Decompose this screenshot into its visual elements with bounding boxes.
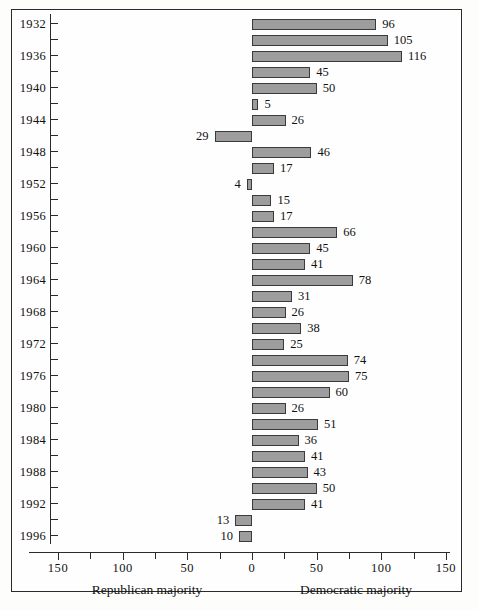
bar-value-label: 4 <box>235 176 241 192</box>
y-axis-tick <box>50 39 58 40</box>
bar <box>252 259 305 270</box>
y-axis-tick <box>50 199 58 200</box>
chart-row: 19524 <box>0 176 479 192</box>
chart-row: 195617 <box>0 208 479 224</box>
bar-value-label: 36 <box>305 432 318 448</box>
x-axis-tick-label: 150 <box>28 561 88 576</box>
chart-row: 5 <box>0 96 479 112</box>
y-axis-tick <box>50 327 58 328</box>
y-axis-tick <box>50 103 58 104</box>
bar-value-label: 26 <box>292 304 305 320</box>
y-axis-tick <box>50 23 58 24</box>
y-axis-tick <box>50 471 58 472</box>
bar <box>252 419 318 430</box>
chart-row: 193296 <box>0 16 479 32</box>
bar <box>247 179 252 190</box>
bar <box>252 275 353 286</box>
chart-row: 194426 <box>0 112 479 128</box>
bar-value-label: 96 <box>382 16 395 32</box>
chart-row: 105 <box>0 32 479 48</box>
chart-row: 17 <box>0 160 479 176</box>
x-axis-minor-tick <box>220 553 221 559</box>
y-axis-tick-label: 1972 <box>0 336 46 352</box>
chart-row: 196826 <box>0 304 479 320</box>
bar-value-label: 13 <box>217 512 230 528</box>
y-axis-tick-label: 1960 <box>0 240 46 256</box>
bar <box>252 483 317 494</box>
y-axis-tick-label: 1964 <box>0 272 46 288</box>
bar-value-label: 26 <box>292 400 305 416</box>
bar <box>252 451 305 462</box>
y-axis-tick <box>50 295 58 296</box>
y-axis-tick <box>50 55 58 56</box>
chart-row: 45 <box>0 64 479 80</box>
y-axis-tick <box>50 231 58 232</box>
y-axis-tick <box>50 455 58 456</box>
y-axis-tick-label: 1980 <box>0 400 46 416</box>
bar <box>252 51 402 62</box>
chart-row: 198436 <box>0 432 479 448</box>
plot-area: 1932961051936116451940505194426291948461… <box>0 14 479 543</box>
y-axis-tick <box>50 375 58 376</box>
y-axis-tick <box>50 519 58 520</box>
bar <box>252 211 274 222</box>
y-axis-tick <box>50 343 58 344</box>
bar <box>252 371 349 382</box>
y-axis-tick <box>50 535 58 536</box>
x-axis-tick-label: 50 <box>287 561 347 576</box>
bar-value-label: 74 <box>354 352 367 368</box>
bar-value-label: 60 <box>336 384 349 400</box>
bar <box>252 227 337 238</box>
bar <box>252 243 310 254</box>
y-axis-tick <box>50 151 58 152</box>
x-axis-tick <box>123 553 124 560</box>
chart-row: 198026 <box>0 400 479 416</box>
bar-value-label: 66 <box>343 224 356 240</box>
bar-value-label: 5 <box>264 96 270 112</box>
bar <box>252 291 292 302</box>
bar <box>252 339 284 350</box>
bar-value-label: 17 <box>280 160 293 176</box>
chart-row: 66 <box>0 224 479 240</box>
y-axis-tick <box>50 247 58 248</box>
y-axis-tick <box>50 439 58 440</box>
x-axis-tick-label: 50 <box>157 561 217 576</box>
x-axis-tick-label: 0 <box>222 561 282 576</box>
chart-row: 60 <box>0 384 479 400</box>
chart-row: 199610 <box>0 528 479 544</box>
y-axis-tick <box>50 359 58 360</box>
chart-row: 31 <box>0 288 479 304</box>
y-axis-tick <box>50 183 58 184</box>
chart-row: 51 <box>0 416 479 432</box>
bar <box>252 147 311 158</box>
axis-caption-republican: Republican majority <box>47 582 247 598</box>
bar-value-label: 78 <box>359 272 372 288</box>
bar-value-label: 105 <box>394 32 413 48</box>
y-axis-tick <box>50 503 58 504</box>
x-axis-tick <box>187 553 188 560</box>
x-axis: Republican majority Democratic majority … <box>0 552 479 611</box>
x-axis-tick <box>446 553 447 560</box>
y-axis-tick-label: 1936 <box>0 48 46 64</box>
x-axis-tick-label: 150 <box>416 561 476 576</box>
bar <box>215 131 252 142</box>
y-axis-tick-label: 1948 <box>0 144 46 160</box>
bar <box>239 531 252 542</box>
y-axis-tick <box>50 311 58 312</box>
x-axis-minor-tick <box>90 553 91 559</box>
bar-value-label: 31 <box>298 288 311 304</box>
bar <box>252 83 317 94</box>
x-axis-line <box>29 552 450 553</box>
chart-row: 196478 <box>0 272 479 288</box>
bar <box>252 387 330 398</box>
x-axis-minor-tick <box>284 553 285 559</box>
chart-row: 197225 <box>0 336 479 352</box>
bar <box>252 307 286 318</box>
x-axis-tick-label: 100 <box>93 561 153 576</box>
chart-row: 194050 <box>0 80 479 96</box>
chart-row: 74 <box>0 352 479 368</box>
bar <box>252 467 308 478</box>
y-axis-tick <box>50 135 58 136</box>
bar-value-label: 43 <box>314 464 327 480</box>
y-axis-tick-label: 1952 <box>0 176 46 192</box>
